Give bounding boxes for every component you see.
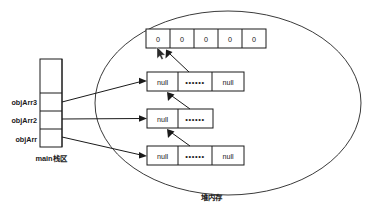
- heap-object-middle: null ••••••: [147, 109, 213, 128]
- arrowhead-objarr2: [139, 115, 147, 121]
- int-array-cell-2: 0: [204, 35, 208, 44]
- heap-object-bottom: null •••••• null: [147, 146, 244, 165]
- int-array-cell-3: 0: [228, 35, 232, 44]
- heap-object-top-cell-1: ••••••: [185, 78, 204, 87]
- heap-object-top: null •••••• null: [147, 72, 244, 91]
- heap-region-label: 堆内存: [201, 193, 223, 202]
- arrowhead-top-to-array: [166, 50, 173, 59]
- stack-frame-box: [40, 59, 62, 147]
- reference-objarr2-to-middle-object: [62, 115, 147, 121]
- reference-objarr-to-bottom-object: [62, 137, 147, 158]
- int-array-cell-4: 0: [252, 35, 256, 44]
- heap-object-bottom-cell-2: null: [222, 152, 234, 161]
- stack-slot-objarr3-label: objArr3: [11, 98, 37, 107]
- heap-object-bottom-cell-1: ••••••: [185, 152, 204, 161]
- main-stack-region: objArr3 objArr2 objArr main栈区: [11, 59, 67, 163]
- memory-model-diagram: objArr3 objArr2 objArr main栈区 0 0 0 0 0 …: [0, 0, 370, 210]
- heap-object-bottom-cell-0: null: [157, 152, 169, 161]
- heap-object-top-cell-0: null: [157, 78, 169, 87]
- int-array-object: 0 0 0 0 0: [146, 29, 266, 48]
- heap-object-middle-cell-1: ••••••: [185, 115, 204, 124]
- int-array-cell-0: 0: [156, 35, 160, 44]
- stack-slot-objarr2-label: objArr2: [11, 116, 37, 125]
- mouse-cursor-icon: [157, 47, 165, 60]
- int-array-cell-1: 0: [180, 35, 184, 44]
- main-stack-region-label: main栈区: [35, 154, 67, 163]
- reference-bottom-object-to-middle-object: [167, 129, 190, 146]
- heap-object-middle-cell-0: null: [157, 115, 169, 124]
- reference-top-object-to-array: [166, 50, 190, 73]
- diagram-canvas: objArr3 objArr2 objArr main栈区 0 0 0 0 0 …: [0, 0, 370, 210]
- stack-slot-objarr-label: objArr: [15, 135, 37, 144]
- arrowhead-objarr3: [139, 78, 147, 84]
- reference-middle-object-to-top-object: [167, 92, 190, 109]
- reference-objarr3-to-top-object: [62, 78, 147, 102]
- heap-object-top-cell-2: null: [222, 78, 234, 87]
- arrowhead-objarr: [139, 152, 147, 158]
